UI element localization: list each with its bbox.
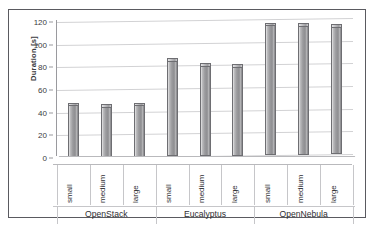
category-divider	[90, 165, 91, 205]
x-axis-category-label: medium	[197, 163, 209, 203]
x-axis-group-labels: OpenStackEucalyptusOpenNebula	[53, 206, 355, 224]
y-axis-tick	[49, 67, 53, 68]
group-label: OpenStack	[57, 209, 156, 219]
bar	[101, 106, 112, 157]
bar-top-cap	[200, 63, 211, 67]
category-divider	[320, 165, 321, 205]
bar	[68, 105, 79, 158]
x-axis-category-label: large	[230, 163, 242, 203]
bar-top-cap	[265, 23, 276, 27]
plot-area	[57, 22, 353, 158]
x-axis-category-label: small	[65, 163, 77, 203]
bar	[167, 60, 178, 156]
x-axis-category-label: medium	[296, 163, 308, 203]
y-axis-tick	[49, 22, 53, 23]
category-divider	[254, 165, 255, 205]
category-divider	[57, 165, 58, 205]
bar	[265, 25, 276, 155]
y-axis-tick	[49, 44, 53, 45]
x-axis-category-label: large	[131, 163, 143, 203]
y-axis-tick-label: 40	[38, 108, 47, 117]
bar	[134, 105, 145, 157]
group-label: OpenNebula	[254, 209, 353, 219]
group-divider	[156, 206, 157, 224]
group-divider	[353, 206, 354, 224]
bar-top-cap	[298, 23, 309, 27]
bar	[232, 66, 243, 156]
category-divider	[287, 165, 288, 205]
y-axis-tick	[49, 135, 53, 136]
category-divider	[353, 165, 354, 205]
bar	[200, 65, 211, 156]
bars-container	[57, 22, 353, 158]
y-axis-tick-label: 100	[34, 40, 47, 49]
group-divider	[53, 206, 355, 207]
x-axis-category-label: large	[329, 163, 341, 203]
bar-top-cap	[232, 64, 243, 68]
bar-top-cap	[68, 103, 79, 107]
group-divider	[254, 206, 255, 224]
x-axis-category-label: small	[263, 163, 275, 203]
bar-top-cap	[331, 24, 342, 28]
y-axis-tick-label: 120	[34, 18, 47, 27]
bar-top-cap	[101, 104, 112, 108]
x-axis-category-labels: smallmediumlargesmallmediumlargesmallmed…	[53, 165, 355, 205]
bar	[298, 25, 309, 154]
bar	[331, 26, 342, 154]
x-axis-category-label: small	[164, 163, 176, 203]
y-axis-tick-label: 60	[38, 86, 47, 95]
y-axis-tick	[49, 112, 53, 113]
bar-chart: Duration [s] 020406080100120 smallmedium…	[9, 10, 365, 217]
y-axis-tick-label: 80	[38, 63, 47, 72]
y-axis-tick	[49, 90, 53, 91]
group-divider	[57, 206, 58, 224]
group-label: Eucalyptus	[156, 209, 255, 219]
chart-frame: Duration [s] 020406080100120 smallmedium…	[8, 9, 366, 218]
y-axis-tick-labels: 020406080100120	[9, 22, 53, 158]
y-axis-tick-label: 0	[43, 154, 47, 163]
category-divider	[156, 165, 157, 205]
category-divider	[189, 165, 190, 205]
chart-page: Duration [s] 020406080100120 smallmedium…	[0, 0, 374, 226]
bar-top-cap	[167, 58, 178, 62]
category-divider	[123, 165, 124, 205]
bar-top-cap	[134, 103, 145, 107]
x-axis-category-label: medium	[98, 163, 110, 203]
y-axis-tick-label: 20	[38, 131, 47, 140]
category-divider	[221, 165, 222, 205]
